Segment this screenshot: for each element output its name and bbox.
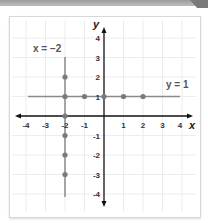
equation-vertical-line: x = −2 xyxy=(33,43,62,54)
x-tick: -2 xyxy=(61,121,69,130)
x-tick: 1 xyxy=(121,121,126,130)
y-axis-up-arrow-icon xyxy=(102,27,107,33)
y-axis-down-arrow-icon xyxy=(102,201,107,207)
y-tick: 3 xyxy=(96,54,101,63)
x-tick: 3 xyxy=(160,121,165,130)
y-tick: -4 xyxy=(93,190,101,199)
x-tick: 4 xyxy=(178,121,183,130)
x-tick: 2 xyxy=(141,121,146,130)
x-axis-left-arrow-icon xyxy=(15,114,21,119)
x-axis-label: x xyxy=(188,119,196,131)
y-axis-label: y xyxy=(92,18,100,30)
y-tick: -1 xyxy=(93,132,101,141)
equation-horizontal-line: y = 1 xyxy=(166,79,189,90)
x-tick: -4 xyxy=(22,121,30,130)
x-axis-right-arrow-icon xyxy=(187,114,193,119)
y-tick: 1 xyxy=(96,93,101,102)
coordinate-plane: -4 -3 -2 -1 1 2 3 4 4 3 2 1 -1 -2 -3 -4 … xyxy=(0,0,208,223)
y-tick: -3 xyxy=(93,171,101,180)
y-tick: 4 xyxy=(96,34,101,43)
x-tick: -3 xyxy=(42,121,50,130)
x-tick: -1 xyxy=(81,121,89,130)
y-tick: 2 xyxy=(96,73,101,82)
y-tick: -2 xyxy=(93,151,101,160)
x-tick-labels: -4 -3 -2 -1 1 2 3 4 xyxy=(22,121,182,130)
